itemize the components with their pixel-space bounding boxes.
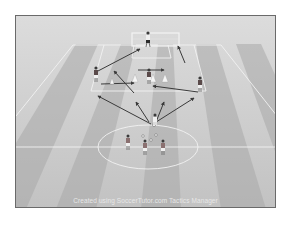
watermark-caption: Created using SoccerTutor.com Tactics Ma… xyxy=(16,197,275,204)
pitch-diagram xyxy=(16,16,276,208)
pitch-diagram-frame: Created using SoccerTutor.com Tactics Ma… xyxy=(15,15,276,208)
player-bottom-4 xyxy=(153,114,157,126)
